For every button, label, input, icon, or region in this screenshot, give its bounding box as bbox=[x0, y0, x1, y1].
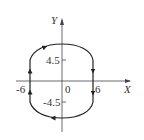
x-tick-label-6: 6 bbox=[95, 83, 101, 95]
y-tick-label-neg-4.5: -4.5 bbox=[43, 96, 61, 108]
y-tick-label-4.5: 4.5 bbox=[46, 54, 60, 66]
y-axis bbox=[60, 18, 64, 132]
x-axis-label: X bbox=[123, 83, 132, 95]
phase-diagram: Y X 0 -6 6 4.5 -4.5 bbox=[0, 0, 144, 140]
y-axis-label: Y bbox=[51, 14, 59, 26]
x-axis bbox=[16, 79, 131, 83]
x-tick-label-neg-6: -6 bbox=[16, 83, 26, 95]
y-axis-arrow-icon bbox=[60, 18, 64, 25]
origin-label: 0 bbox=[65, 83, 71, 95]
